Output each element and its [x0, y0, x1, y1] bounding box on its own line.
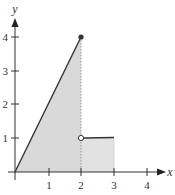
shaded-region-rect	[81, 138, 114, 172]
y-tick-label-4: 4	[3, 31, 9, 43]
x-axis-label: x	[166, 165, 173, 179]
y-tick-label-3: 3	[3, 65, 9, 77]
x-tick-label-1: 1	[46, 179, 52, 191]
function-segment-2	[84, 138, 114, 139]
filled-point	[78, 34, 83, 39]
x-axis-arrow-icon	[157, 169, 166, 176]
x-tick-label-4: 4	[144, 179, 150, 191]
piecewise-function-chart: 1 2 3 4 1 2 3 4 x y	[0, 0, 175, 195]
y-tick-label-2: 2	[3, 98, 9, 110]
y-axis-label: y	[11, 2, 18, 16]
x-tick-label-2: 2	[78, 179, 84, 191]
y-tick-label-1: 1	[3, 132, 9, 144]
x-tick-label-3: 3	[111, 179, 117, 191]
open-point	[78, 135, 83, 140]
y-axis-arrow-icon	[12, 18, 19, 27]
